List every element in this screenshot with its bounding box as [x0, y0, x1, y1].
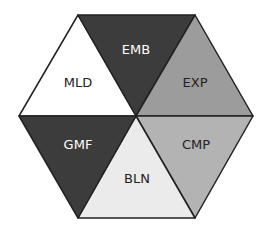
segment-label-emb: EMB	[122, 42, 150, 57]
segment-label-exp: EXP	[183, 75, 208, 90]
segment-label-bln: BLN	[124, 171, 150, 186]
segment-label-mld: MLD	[64, 75, 92, 90]
hexagon-diagram: MLDEMBEXPCMPBLNGMF	[0, 0, 268, 226]
segment-label-gmf: GMF	[64, 137, 93, 152]
segment-label-cmp: CMP	[182, 137, 210, 152]
